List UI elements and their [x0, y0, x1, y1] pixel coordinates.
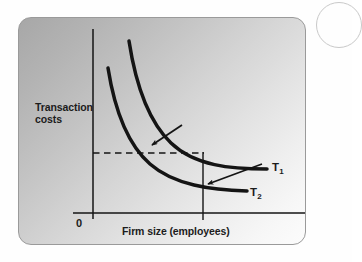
- curve-t1: [129, 41, 267, 169]
- diagram-panel: Transactioncosts Firm size (employees) 0…: [18, 17, 306, 245]
- curve-label-t2-subscript: 2: [257, 192, 261, 201]
- decorative-circle-icon: [316, 2, 362, 48]
- y-axis-title-line1: Transaction: [35, 101, 93, 113]
- curve-label-t1-subscript: 1: [279, 167, 283, 176]
- curve-label-t1: T1: [272, 161, 283, 174]
- curve-label-t2-text: T: [250, 186, 257, 198]
- curve-label-t2: T2: [250, 186, 261, 199]
- curve-t2: [108, 68, 247, 191]
- y-axis-title: Transactioncosts: [35, 102, 93, 126]
- diagram-canvas: [19, 18, 306, 245]
- x-axis-title: Firm size (employees): [122, 226, 230, 238]
- curve-label-t1-text: T: [272, 161, 279, 173]
- y-axis-title-line2: costs: [35, 113, 62, 125]
- origin-label: 0: [76, 217, 82, 229]
